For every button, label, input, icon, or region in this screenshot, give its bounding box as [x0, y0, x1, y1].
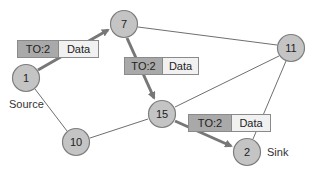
- node-1[interactable]: 1: [13, 65, 40, 92]
- packet-payload: Data: [163, 58, 198, 74]
- sink-label: Sink: [267, 146, 288, 158]
- node-10[interactable]: 10: [63, 129, 90, 156]
- node-2[interactable]: 2: [234, 139, 261, 166]
- svg-text:15: 15: [156, 108, 168, 120]
- packet-3: TO:2 Data: [188, 114, 271, 132]
- svg-text:7: 7: [121, 18, 127, 30]
- node-7[interactable]: 7: [111, 11, 138, 38]
- svg-text:1: 1: [23, 72, 29, 84]
- packet-payload: Data: [232, 115, 270, 131]
- source-label: Source: [9, 98, 44, 110]
- svg-text:10: 10: [70, 136, 82, 148]
- packet-header: TO:2: [125, 58, 163, 74]
- edge-10-15: [90, 119, 148, 138]
- packet-header: TO:2: [189, 115, 232, 131]
- edge-7-11: [138, 27, 277, 45]
- node-11[interactable]: 11: [278, 35, 305, 62]
- packet-header: TO:2: [18, 41, 59, 57]
- svg-text:2: 2: [244, 146, 250, 158]
- packet-payload: Data: [59, 41, 98, 57]
- svg-text:11: 11: [285, 42, 296, 54]
- packet-1: TO:2 Data: [17, 40, 99, 58]
- node-15[interactable]: 15: [149, 101, 176, 128]
- edge-1-10: [35, 89, 67, 131]
- packet-2: TO:2 Data: [124, 57, 199, 75]
